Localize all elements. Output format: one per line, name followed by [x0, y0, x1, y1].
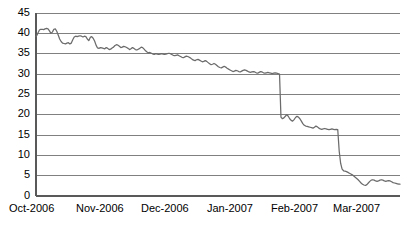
x-tick-label: Oct-2006: [9, 202, 54, 214]
series-line: [36, 28, 400, 185]
axis-frame: [36, 13, 400, 196]
x-axis-labels: Oct-2006 Nov-2006 Dec-2006 Jan-2007 Feb-…: [0, 202, 414, 220]
x-tick-label: Jan-2007: [207, 202, 253, 214]
x-tick-label: Nov-2006: [76, 202, 124, 214]
plot-area: [0, 0, 414, 226]
x-tick-label: Feb-2007: [271, 202, 318, 214]
x-tick-label: Dec-2006: [141, 202, 189, 214]
x-tick-label: Mar-2007: [333, 202, 380, 214]
line-chart: 45 40 35 30 25 20 15 10 5 0 Oct-2006: [0, 0, 414, 226]
